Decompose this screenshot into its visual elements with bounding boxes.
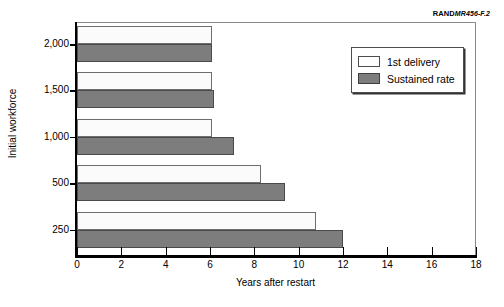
bar-sustained-rate (77, 137, 234, 155)
x-axis-tick-label: 16 (420, 259, 444, 270)
document-id: MR456-F.2 (455, 10, 490, 17)
y-axis-tick (70, 137, 76, 139)
bar-first-delivery (77, 212, 316, 230)
legend-swatch-sustained-rate (358, 73, 380, 84)
y-axis-title: Initial workforce (7, 64, 18, 184)
legend-label: 1st delivery (387, 56, 440, 68)
x-axis-tick-label: 6 (198, 259, 222, 270)
x-axis-tick (77, 247, 78, 255)
x-axis-tick (299, 247, 300, 255)
bar-first-delivery (77, 165, 261, 183)
bar-sustained-rate (77, 90, 214, 108)
x-axis-tick-label: 8 (242, 259, 266, 270)
x-axis-tick (432, 247, 433, 255)
y-axis-tick (70, 90, 76, 92)
chart-legend: 1st deliverySustained rate (351, 47, 464, 93)
x-axis-tick (121, 247, 122, 255)
bar-group (77, 162, 476, 208)
bar-first-delivery (77, 119, 212, 137)
bar-sustained-rate (77, 230, 343, 248)
x-axis-tick-label: 2 (109, 259, 133, 270)
legend-item: Sustained rate (358, 70, 455, 87)
legend-item: 1st delivery (358, 53, 455, 70)
legend-label: Sustained rate (387, 73, 455, 85)
x-axis-tick (210, 247, 211, 255)
bar-sustained-rate (77, 44, 212, 62)
bar-sustained-rate (77, 183, 285, 201)
x-axis-tick (254, 247, 255, 255)
y-axis-tick-label: 2,000 (7, 38, 69, 49)
y-axis-tick (70, 44, 76, 46)
x-axis-tick-label: 14 (375, 259, 399, 270)
x-axis-title: Years after restart (75, 277, 476, 288)
source-credit: RANDMR456-F.2 (433, 9, 490, 18)
rand-logo-text: RAND (433, 9, 455, 18)
x-axis-tick (387, 247, 388, 255)
x-axis-line (75, 255, 477, 258)
bar-group (77, 116, 476, 162)
x-axis-tick (166, 247, 167, 255)
x-axis-tick-label: 10 (287, 259, 311, 270)
bar-first-delivery (77, 72, 212, 90)
y-axis-tick (70, 183, 76, 185)
bar-first-delivery (77, 26, 212, 44)
x-axis-tick (343, 247, 344, 255)
legend-swatch-first-delivery (358, 56, 380, 67)
bar-group (77, 209, 476, 255)
y-axis-tick (70, 230, 76, 232)
y-axis-tick-label: 250 (7, 224, 69, 235)
x-axis-tick-label: 18 (464, 259, 488, 270)
x-axis-tick-label: 4 (154, 259, 178, 270)
x-axis-tick-label: 12 (331, 259, 355, 270)
x-axis-tick (476, 247, 477, 255)
